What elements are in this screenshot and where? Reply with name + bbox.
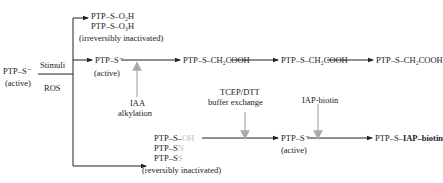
product-1: PTP–S–CH₂COOH	[183, 55, 250, 65]
iaa-label: IAA	[130, 98, 145, 108]
reactivated-state: (active)	[281, 145, 307, 155]
reversible-prefix: PTP–S	[154, 153, 178, 163]
start-state: (active)	[5, 78, 31, 88]
faded-n: N	[178, 143, 184, 153]
stimuli-label: Stimuli	[40, 60, 65, 70]
reversible-sulfenic: PTP–S–OH	[154, 133, 194, 143]
faded-s: S	[178, 153, 183, 163]
iap-biotin-label: IAP-biotin	[302, 95, 338, 105]
alkylation-label: alkylation	[118, 108, 152, 118]
irreversible-sulfinic: PTP–S–O₂H	[91, 11, 134, 21]
product-2: PTP–S–CH₂COOH	[281, 55, 348, 65]
faded-oh: OH	[182, 133, 194, 143]
reversible-prefix: PTP–S	[154, 143, 178, 153]
tcep-label: TCEP/DTT	[220, 87, 260, 97]
active-state: (active)	[94, 68, 120, 78]
active-species: PTP–S⁻	[95, 55, 124, 65]
reversible-disulfide: PTP–SS	[154, 153, 182, 163]
reversible-note: (reversibly inactivated)	[142, 165, 221, 175]
product-3: PTP–S–CH₂COOH	[376, 55, 443, 65]
irreversible-sulfonic: PTP–S–O₃H	[91, 21, 134, 31]
ros-label: ROS	[44, 83, 61, 93]
final-prefix: PTP–S–	[375, 133, 403, 143]
final-product: PTP–S–IAP–biotin	[375, 133, 443, 143]
reversible-prefix: PTP–S–	[154, 133, 182, 143]
reactivated-species: PTP–S⁻	[281, 133, 310, 143]
final-label: IAP–biotin	[403, 133, 443, 143]
buffer-exchange-label: buffer exchange	[208, 97, 263, 107]
start-species: PTP–S⁻	[3, 66, 32, 76]
reversible-sulfenamide: PTP–SN	[154, 143, 184, 153]
irreversible-note: (irreversibly inactivated)	[79, 33, 163, 43]
